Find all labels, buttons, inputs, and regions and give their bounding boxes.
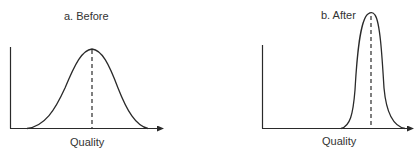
panel-a-chart [10, 47, 163, 129]
panel-b-x-axis-label: Quality [322, 135, 356, 147]
panel-b-title: b. After [321, 9, 356, 21]
panel-a-x-axis-label: Quality [70, 136, 104, 148]
figure-canvas [0, 0, 420, 158]
panel-a-title: a. Before [64, 10, 109, 22]
panel-b-chart [262, 13, 413, 129]
panel-b-distribution-curve [341, 13, 405, 129]
panel-a-distribution-curve [27, 49, 148, 129]
